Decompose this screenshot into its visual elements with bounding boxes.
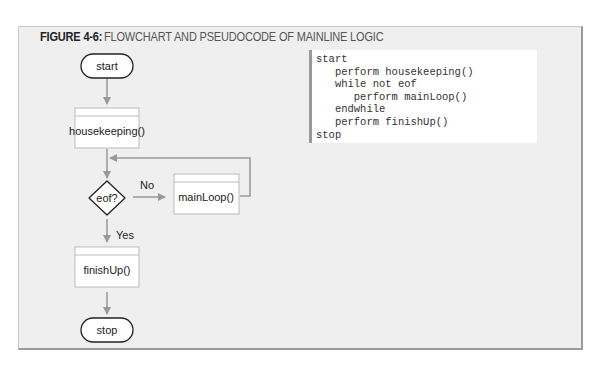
finishup-process: finishUp() [75, 247, 139, 287]
pseudocode-box: start perform housekeeping() while not e… [309, 50, 537, 143]
no-label: No [140, 179, 154, 191]
mainloop-label: mainLoop() [178, 191, 234, 203]
decision-label: eof? [96, 192, 117, 204]
start-label: start [96, 60, 117, 72]
pseudocode-line: while not eof [316, 78, 537, 91]
pseudocode-line: stop [316, 129, 537, 142]
start-terminal: start [81, 54, 133, 78]
pseudocode-line: endwhile [316, 103, 537, 116]
stop-label: stop [97, 324, 118, 336]
yes-label: Yes [116, 229, 134, 241]
stop-terminal: stop [81, 318, 133, 342]
finishup-label: finishUp() [83, 264, 130, 276]
eof-decision: eof? [89, 181, 125, 215]
mainloop-process: mainLoop() [174, 174, 239, 214]
housekeeping-label: housekeeping() [69, 125, 145, 137]
pseudocode-line: perform housekeeping() [316, 66, 537, 79]
housekeeping-process: housekeeping() [69, 108, 145, 148]
pseudocode-line: perform mainLoop() [316, 91, 537, 104]
pseudocode-line: start [316, 53, 537, 66]
pseudocode-line: perform finishUp() [316, 116, 537, 129]
